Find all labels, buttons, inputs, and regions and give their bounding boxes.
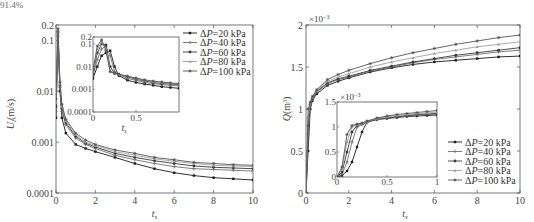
y-tick-label: 0.01 <box>37 86 55 97</box>
y-tick-label: 0.0001 <box>27 188 55 199</box>
inset-y-tick-label: 0.0001 <box>67 107 92 117</box>
inset-x-tick-label: 0.5 <box>381 177 393 187</box>
x-tick-label: 10 <box>248 195 258 206</box>
y-tick-label: 0.5 <box>291 146 304 157</box>
y-tick-label: 2 <box>298 20 303 31</box>
y-tick-label: 0.1 <box>42 35 55 46</box>
x-tick-label: 8 <box>211 195 216 206</box>
inset-y-tick-label: 0.2 <box>81 32 92 42</box>
y-tick-label: 1 <box>298 104 303 115</box>
x-axis-label: ts <box>402 208 408 221</box>
legend-entry: ΔP=100 kPa <box>200 66 251 77</box>
x-tick-label: 2 <box>346 195 351 206</box>
y-tick-label: 0.2 <box>42 20 55 31</box>
y-tick-label: 0 <box>298 188 303 199</box>
inset-y-tick-label: 0.01 <box>76 62 92 72</box>
legend-entry: ΔP=100 kPa <box>465 175 516 186</box>
y-tick-label: 0.001 <box>32 137 55 148</box>
x-tick-label: 2 <box>93 195 98 206</box>
figure-canvas: 02468100.00010.0010.010.10.2tsUl(m/s)00.… <box>0 0 534 222</box>
x-tick-label: 10 <box>515 195 525 206</box>
inset-y-tick-label: 1 <box>332 122 337 132</box>
inset-y-tick-label: 0 <box>332 172 337 182</box>
x-tick-label: 0 <box>304 195 309 206</box>
x-tick-label: 8 <box>475 195 480 206</box>
inset-y-tick-label: 1.5 <box>325 97 337 107</box>
inset-x-tick-label: 0.5 <box>130 113 142 123</box>
inset-x-tick-label: 1 <box>435 177 440 187</box>
y-axis-label: Q(m3) <box>281 97 293 122</box>
y-axis-label: Ul(m/s) <box>5 99 18 129</box>
x-tick-label: 6 <box>432 195 437 206</box>
x-axis-label: ts <box>152 208 158 221</box>
x-tick-label: 0 <box>54 195 59 206</box>
x-tick-label: 6 <box>172 195 177 206</box>
chart-volume: 024681000.511.52×10−3tsQ(m3)00.5100.511.… <box>281 14 525 221</box>
x-tick-label: 4 <box>132 195 137 206</box>
y-tick-label: 1.5 <box>291 62 304 73</box>
inset-volume: 00.5100.511.5×10−3 <box>325 92 440 187</box>
y-multiplier: ×10−3 <box>309 14 329 24</box>
chart-velocity: 02468100.00010.0010.010.10.2tsUl(m/s)00.… <box>5 20 258 222</box>
inset-y-tick-label: 0.001 <box>72 84 92 94</box>
inset-y-tick-label: 0.5 <box>325 147 337 157</box>
x-tick-label: 4 <box>389 195 394 206</box>
